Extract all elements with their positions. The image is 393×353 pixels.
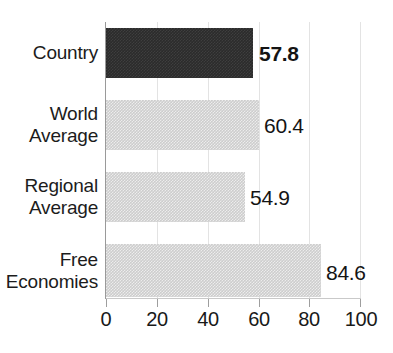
tick-40 bbox=[208, 299, 209, 307]
xtick-label-100: 100 bbox=[345, 309, 377, 329]
value-label-country: 57.8 bbox=[259, 43, 299, 64]
bar-country[interactable] bbox=[106, 28, 253, 78]
value-label-world-average: 60.4 bbox=[264, 115, 304, 136]
xtick-label-0: 0 bbox=[101, 309, 112, 329]
tick-20 bbox=[157, 299, 158, 307]
value-label-free-economies: 84.6 bbox=[326, 262, 366, 283]
xtick-label-80: 80 bbox=[298, 309, 320, 329]
category-label-world-average: World Average bbox=[29, 103, 98, 147]
tick-0 bbox=[106, 299, 107, 307]
xtick-label-40: 40 bbox=[197, 309, 219, 329]
plot-area bbox=[106, 22, 360, 298]
category-label-country: Country bbox=[33, 42, 98, 64]
x-axis-baseline bbox=[106, 298, 361, 299]
bar-regional-average[interactable] bbox=[106, 172, 245, 222]
xtick-label-20: 20 bbox=[146, 309, 168, 329]
bar-free-economies[interactable] bbox=[106, 244, 321, 297]
tick-100 bbox=[360, 299, 361, 307]
category-label-regional-average: Regional Average bbox=[25, 175, 98, 219]
bar-chart: Country World Average Regional Average F… bbox=[0, 0, 393, 353]
value-label-regional-average: 54.9 bbox=[250, 187, 290, 208]
xtick-label-60: 60 bbox=[248, 309, 270, 329]
tick-60 bbox=[259, 299, 260, 307]
bar-world-average[interactable] bbox=[106, 100, 259, 150]
tick-80 bbox=[309, 299, 310, 307]
y-axis-line bbox=[105, 22, 106, 299]
category-label-free-economies: Free Economies bbox=[6, 249, 98, 293]
chart-title bbox=[88, 0, 318, 7]
gridline-100 bbox=[360, 22, 361, 298]
